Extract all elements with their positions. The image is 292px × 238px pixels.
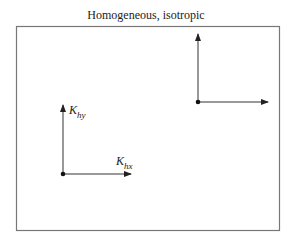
domain-frame <box>17 27 280 231</box>
khx-label: Khx <box>115 154 133 171</box>
khy-label: Khy <box>68 103 86 120</box>
vector-group-lower-left: Khy Khx <box>61 103 133 176</box>
diagram-canvas: Khy Khx <box>0 0 292 238</box>
origin-point <box>61 172 66 177</box>
vector-group-upper-right <box>196 34 268 104</box>
origin-point <box>196 100 201 105</box>
